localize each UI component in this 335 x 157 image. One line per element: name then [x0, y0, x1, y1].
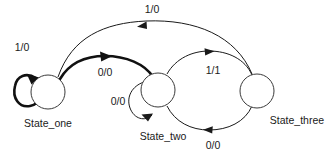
transition-t6-arrowhead: [137, 21, 147, 29]
state-machine-canvas: 1/0 1/1 0/0 0/0 1/0: [0, 0, 335, 157]
transition-state-three-to-state-two[interactable]: 0/0: [167, 106, 252, 151]
transition-state-one-to-state-two[interactable]: 0/0: [60, 52, 153, 80]
state-two-label: State_two: [140, 130, 187, 142]
transition-t4-arrowhead: [205, 48, 215, 55]
transition-t5-arrowhead: [203, 126, 213, 133]
transition-t2-label: 0/0: [98, 66, 113, 78]
transition-t1-label: 1/0: [15, 41, 30, 53]
transition-t5-path: [167, 106, 252, 130]
transition-t2-arrowhead: [100, 52, 112, 62]
state-machine-diagram: 1/0 1/1 0/0 0/0 1/0: [0, 0, 335, 157]
state-one-circle[interactable]: [31, 75, 65, 109]
transition-t5-label: 0/0: [206, 139, 221, 151]
transition-t3-label: 0/0: [111, 95, 126, 107]
transition-t6-path: [58, 21, 252, 77]
transition-t3-arrowhead: [142, 114, 154, 122]
transition-state-two-to-state-three[interactable]: 1/1: [167, 48, 252, 76]
state-node-state-three[interactable]: State_three: [240, 74, 324, 126]
transition-state-three-to-state-one[interactable]: 1/0: [58, 3, 252, 77]
state-node-state-two[interactable]: State_two: [140, 73, 187, 142]
state-three-circle[interactable]: [240, 74, 274, 108]
transition-t6-label: 1/0: [145, 3, 160, 15]
transition-t4-label: 1/1: [206, 64, 221, 76]
state-three-label: State_three: [270, 114, 324, 126]
state-two-circle[interactable]: [141, 73, 175, 107]
state-one-label: State_one: [24, 117, 72, 129]
